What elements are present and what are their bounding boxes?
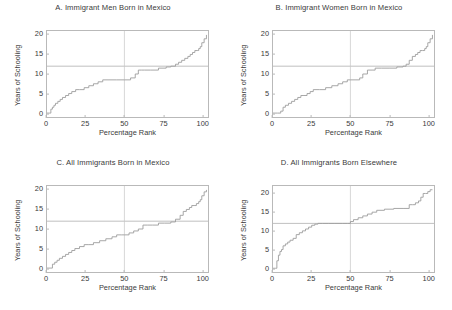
panel-c-xtick-100: 100 [197, 274, 209, 283]
panel-d-plot-svg [273, 186, 434, 272]
panel-a: A. Immigrant Men Born in Mexico Years of… [0, 0, 226, 155]
panel-a-ytick-5: 5 [21, 90, 43, 97]
panel-a-xtick-25: 25 [81, 119, 89, 128]
panel-c-ytick-5: 5 [21, 245, 43, 252]
panel-a-ytick-0: 0 [21, 110, 43, 117]
panel-a-ytick-labels: 05101520 [20, 30, 43, 118]
panel-b-plot-svg [273, 31, 434, 117]
panel-a-ytick-20: 20 [21, 30, 43, 37]
panel-b-ytick-20: 20 [247, 30, 269, 37]
panel-d-title: D. All Immigrants Born Elsewhere [226, 158, 452, 167]
panel-b-ytick-labels: 05101520 [246, 30, 269, 118]
panel-c-title: C. All Immigrants Born in Mexico [0, 158, 226, 167]
panel-d-ytick-10: 10 [247, 227, 269, 234]
panel-c-xtick-50: 50 [120, 274, 128, 283]
panel-c-ytick-labels: 05101520 [20, 185, 43, 273]
panel-d-series-0 [273, 190, 432, 269]
panel-c-series-0 [47, 190, 206, 268]
panel-d-xtick-100: 100 [423, 274, 435, 283]
panel-b-xtick-50: 50 [346, 119, 354, 128]
panel-a-ytick-10: 10 [21, 70, 43, 77]
panel-d: D. All Immigrants Born Elsewhere Years o… [226, 155, 452, 310]
panel-d-ytick-15: 15 [247, 208, 269, 215]
panel-a-xtick-50: 50 [120, 119, 128, 128]
panel-d-ytick-labels: 05101520 [246, 185, 269, 273]
panel-c-xtick-0: 0 [44, 274, 48, 283]
panel-b-xtick-25: 25 [307, 119, 315, 128]
panel-b-title: B. Immigrant Women Born in Mexico [226, 3, 452, 12]
panel-b-ytick-15: 15 [247, 50, 269, 57]
panel-b-xlabel: Percentage Rank [272, 128, 435, 137]
panel-a-xtick-0: 0 [44, 119, 48, 128]
panel-b-xtick-100: 100 [423, 119, 435, 128]
panel-a-title: A. Immigrant Men Born in Mexico [0, 3, 226, 12]
panel-b-ytick-10: 10 [247, 70, 269, 77]
panel-a-xtick-75: 75 [159, 119, 167, 128]
panel-d-xtick-50: 50 [346, 274, 354, 283]
panel-a-xlabel: Percentage Rank [46, 128, 209, 137]
panel-a-plot-area [46, 30, 209, 118]
panel-d-ytick-20: 20 [247, 189, 269, 196]
panel-b-ytick-5: 5 [247, 90, 269, 97]
panel-c-ytick-10: 10 [21, 225, 43, 232]
panel-c-xtick-75: 75 [159, 274, 167, 283]
panel-c-ytick-15: 15 [21, 205, 43, 212]
panel-b-xtick-0: 0 [270, 119, 274, 128]
panel-d-plot-area [272, 185, 435, 273]
panel-a-ytick-15: 15 [21, 50, 43, 57]
panel-c-xlabel: Percentage Rank [46, 283, 209, 292]
panel-b-ytick-0: 0 [247, 110, 269, 117]
panel-c-plot-svg [47, 186, 208, 272]
panel-b-xtick-75: 75 [385, 119, 393, 128]
panel-d-xtick-75: 75 [385, 274, 393, 283]
panel-a-xtick-100: 100 [197, 119, 209, 128]
panel-d-xtick-0: 0 [270, 274, 274, 283]
panel-a-series-0 [47, 35, 206, 113]
panel-b-plot-area [272, 30, 435, 118]
panel-c-plot-area [46, 185, 209, 273]
panel-b: B. Immigrant Women Born in Mexico Years … [226, 0, 452, 155]
panel-d-ytick-5: 5 [247, 246, 269, 253]
panel-c-ytick-20: 20 [21, 185, 43, 192]
panel-d-xlabel: Percentage Rank [272, 283, 435, 292]
panel-c-ytick-0: 0 [21, 265, 43, 272]
panel-a-plot-svg [47, 31, 208, 117]
panel-c-xtick-25: 25 [81, 274, 89, 283]
figure-panel-grid: A. Immigrant Men Born in Mexico Years of… [0, 0, 452, 310]
panel-c: C. All Immigrants Born in Mexico Years o… [0, 155, 226, 310]
panel-b-series-0 [273, 35, 432, 113]
panel-d-ytick-0: 0 [247, 265, 269, 272]
panel-d-xtick-25: 25 [307, 274, 315, 283]
